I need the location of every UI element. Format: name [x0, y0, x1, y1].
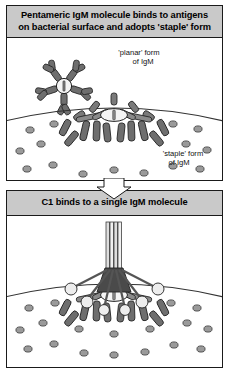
antigen [39, 319, 47, 325]
antigens [16, 299, 212, 357]
staple-igm-molecule [58, 93, 169, 147]
antigen [75, 325, 83, 331]
antigen [140, 170, 148, 176]
antigen [16, 326, 24, 332]
antigen [169, 121, 177, 127]
c1q-head [65, 283, 77, 295]
staple-form-label: 'staple' form of IgM [163, 149, 203, 167]
c1-binding-illustration [7, 216, 222, 370]
pentameric-igm-illustration: 'planar' form of IgM [7, 38, 222, 186]
antigen [110, 330, 118, 336]
antigen [23, 166, 31, 172]
antigen [194, 126, 202, 132]
staple-igm-molecule [58, 288, 169, 327]
antigen [50, 340, 58, 346]
antigen [26, 127, 34, 133]
staple-igm-legs [58, 298, 169, 327]
antigen [110, 351, 118, 357]
svg-text:'planar' form: 'planar' form [118, 48, 159, 57]
staple-igm-j-chain [113, 110, 116, 120]
antigen [196, 166, 204, 172]
antigen [193, 304, 201, 310]
panel-c1-binding-header: C1 binds to a single IgM molecule [7, 191, 222, 216]
antigen [146, 325, 154, 331]
planar-igm-molecule [33, 58, 94, 116]
antigen [25, 304, 33, 310]
antigen [79, 171, 87, 177]
immunology-diagram: Pentameric IgM molecule binds to antigen… [0, 0, 229, 381]
antigen [167, 299, 175, 305]
panel-pentameric-igm-header-line-1: Pentameric IgM molecule binds to antigen… [11, 10, 218, 22]
antigen [183, 319, 191, 325]
c1q-head [152, 283, 164, 295]
planar-igm-j-chain [63, 81, 65, 91]
antigen [50, 121, 58, 127]
svg-text:'staple' form: 'staple' form [163, 149, 203, 158]
panel-pentameric-igm: Pentameric IgM molecule binds to antigen… [6, 5, 223, 181]
antigen [203, 147, 211, 153]
antigen [49, 162, 57, 168]
svg-text:of IgM: of IgM [168, 158, 189, 167]
c1q-head [99, 304, 110, 315]
antigen [16, 148, 24, 154]
planar-form-label: 'planar' form of IgM [118, 48, 159, 66]
staple-igm-legs [58, 119, 169, 148]
antigen [182, 141, 190, 147]
panel-c1-binding: C1 binds to a single IgM molecule [6, 190, 223, 368]
panel-pentameric-igm-header: Pentameric IgM molecule binds to antigen… [7, 6, 222, 38]
c1q-head [120, 304, 131, 315]
c1q-head [136, 296, 148, 308]
antigen [24, 345, 32, 351]
antigen [51, 299, 59, 305]
c1q-head [81, 296, 93, 308]
antigen [37, 141, 45, 147]
panel-c1-binding-body [7, 216, 222, 370]
antigen [197, 345, 205, 351]
panel-pentameric-igm-body: 'planar' form of IgM [7, 38, 222, 186]
antigen [170, 341, 178, 347]
panel-pentameric-igm-header-line-2: on bacterial surface and adopts 'staple'… [11, 22, 218, 34]
antigen [110, 167, 118, 173]
antigen [141, 348, 149, 354]
antigen [204, 325, 212, 331]
antigen [80, 349, 88, 355]
c1-stalks [106, 222, 121, 270]
panel-c1-binding-header-line-1: C1 binds to a single IgM molecule [11, 197, 218, 209]
svg-text:of IgM: of IgM [132, 57, 153, 66]
